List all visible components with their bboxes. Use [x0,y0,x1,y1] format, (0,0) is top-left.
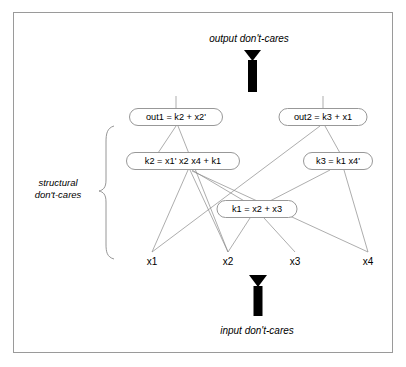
structural-brace [99,126,114,259]
edge-k1-x3 [264,218,295,252]
edge-out1-x2 [178,126,228,252]
node-k3[interactable]: k3 = k1 x4' [304,153,373,170]
caption-structural-line2: don't-cares [35,189,82,200]
input-label-x3: x3 [290,256,301,267]
figure-root: output don't-cares input don't-cares str… [0,0,406,367]
node-k2[interactable]: k2 = x1' x2 x4 + k1 [127,153,240,170]
edge-k2-x1 [152,170,188,252]
input-label-x2: x2 [223,256,234,267]
edge-out1-k2 [158,126,176,153]
output-arrow-up-icon [244,50,261,92]
diagram-canvas: output don't-cares input don't-cares str… [0,0,406,367]
input-label-x1: x1 [147,256,158,267]
caption-structural-line1: structural [38,177,78,188]
node-k1[interactable]: k1 = x2 + x3 [217,201,297,218]
caption-input-dont-cares: input don't-cares [220,325,294,336]
edge-k1-x2 [228,218,250,252]
caption-output-dont-cares: output don't-cares [209,33,289,44]
edge-k2-k1 [192,170,246,202]
edge-out2-x1 [152,126,320,252]
node-out1-label: out1 = k2 + x2' [146,112,206,122]
edge-k3-x4 [344,170,368,252]
node-k1-label: k1 = x2 + x3 [232,204,282,214]
node-out2[interactable]: out2 = k3 + x1 [279,109,367,126]
node-k3-label: k3 = k1 x4' [316,156,360,166]
edge-k3-k1 [268,170,330,202]
node-k2-label: k2 = x1' x2 x4 + k1 [145,156,221,166]
node-out1[interactable]: out1 = k2 + x2' [130,109,223,126]
node-out2-label: out2 = k3 + x1 [294,112,352,122]
input-arrow-up-icon [249,275,267,316]
edge-out2-k3 [325,126,340,153]
input-label-x4: x4 [363,256,374,267]
